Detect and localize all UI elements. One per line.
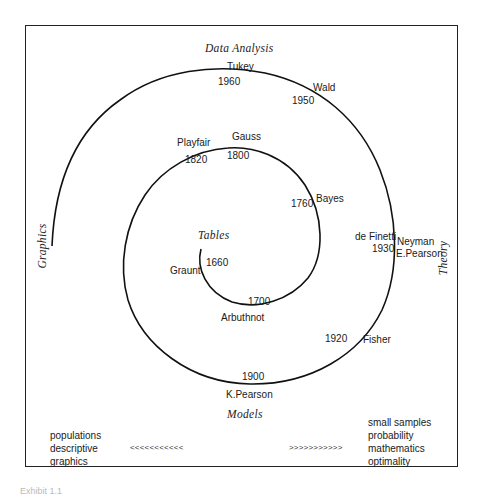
bottom-right-list: small samples probability mathematics op… [368,416,431,468]
axis-label-left: Graphics [36,216,48,276]
milestone-year-wald: 1950 [292,95,314,107]
milestone-year-tukey: 1960 [218,76,240,88]
milestone-name-neyman: Neyman [397,236,434,248]
bottom-right-item: optimality [368,455,431,468]
bottom-left-item: descriptive [50,442,101,455]
milestone-name-wald: Wald [313,82,335,94]
milestone-year-fisher: 1920 [325,333,347,345]
axis-label-bottom: Models [227,408,263,420]
axis-label-center: Tables [198,229,229,241]
milestone-year-arbuthnot: 1700 [248,296,270,308]
milestone-name-gauss: Gauss [232,131,261,143]
bottom-left-item: populations [50,429,101,442]
milestone-name-kpearson: K.Pearson [226,389,273,401]
milestone-year-gauss: 1800 [227,150,249,162]
milestone-name-arbuthnot: Arbuthnot [221,312,264,324]
milestone-year-definetti: 1930 [372,243,394,255]
milestone-name-tukey: Tukey [227,61,254,73]
milestone-year-bayes: 1760 [291,198,313,210]
milestone-year-graunt: 1660 [206,257,228,269]
milestone-name-definetti: de Finetti [355,231,396,243]
bottom-left-item: graphics [50,455,101,468]
bottom-right-item: small samples [368,416,431,429]
left-arrows: <<<<<<<<<<< [130,443,184,452]
milestone-year-kpearson: 1900 [242,371,264,383]
milestone-name-bayes: Bayes [316,193,344,205]
milestone-name-fisher: Fisher [363,334,391,346]
bottom-left-list: populations descriptive graphics [50,429,101,468]
bottom-right-item: mathematics [368,442,431,455]
axis-label-top: Data Analysis [205,42,274,54]
bottom-right-item: probability [368,429,431,442]
right-arrows: >>>>>>>>>>> [289,443,343,452]
milestone-name-graunt: Graunt [170,265,201,277]
figure-caption: Exhibit 1.1 [20,486,62,496]
milestone-name-playfair: Playfair [177,137,210,149]
milestone-name-epearson: E.Pearson [396,248,443,260]
milestone-year-playfair: 1820 [185,154,207,166]
